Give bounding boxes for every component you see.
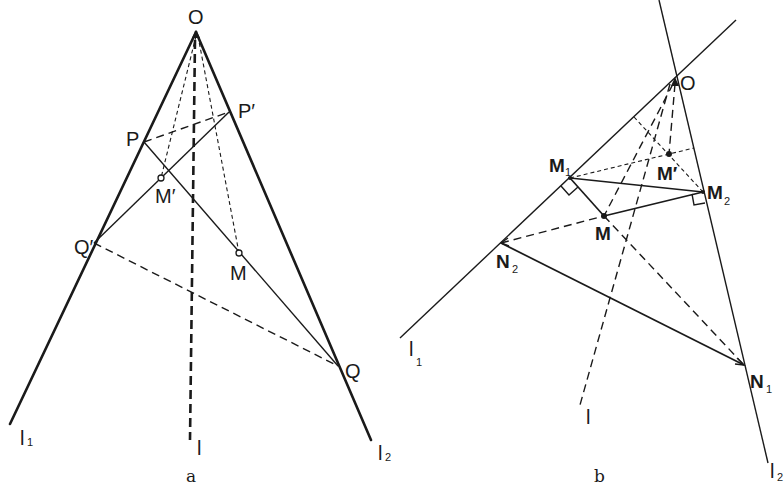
label-N2: N: [496, 251, 510, 272]
label-l2-a: l: [378, 442, 382, 464]
label-Mprime-a: M′: [155, 185, 176, 207]
label-Mprime-b: M′: [657, 163, 678, 184]
label-M1-sub: 1: [565, 166, 571, 178]
label-l1-b-sub: 1: [416, 356, 422, 368]
label-l1-a-sub: 1: [27, 436, 33, 448]
label-M2-sub: 2: [724, 195, 730, 207]
label-N1-sub: 1: [766, 383, 772, 395]
label-l2-a-sub: 2: [385, 451, 391, 463]
segment-MM2: [604, 192, 703, 216]
label-M2: M: [707, 182, 723, 203]
segment-M1M2: [570, 178, 703, 192]
point-M-a: [236, 250, 242, 256]
segment-OM: [198, 36, 239, 253]
caption-a: a: [186, 466, 196, 486]
label-O-b: O: [680, 72, 696, 94]
label-O-a: O: [188, 6, 204, 28]
label-l1-a: l: [20, 427, 24, 449]
geometry-figure: O P P′ Q′ Q M′ M l l 1 l 2 a: [0, 0, 784, 493]
segment-MN1: [604, 216, 744, 365]
point-Mprime-b: [666, 151, 672, 157]
line-l2-b: [659, 0, 768, 463]
label-N1: N: [750, 371, 764, 392]
line-l-a: [190, 40, 195, 440]
label-Qprime: Q′: [74, 236, 94, 258]
label-M-a: M: [230, 262, 247, 284]
segment-OM-b: [604, 84, 673, 216]
label-l1-b: l: [409, 338, 413, 360]
right-angle-mark-M2: [692, 194, 705, 205]
line-l1-b: [400, 20, 736, 338]
label-l-a: l: [197, 437, 201, 459]
segment-QprimeQ: [94, 243, 338, 366]
label-M-b: M: [595, 223, 611, 244]
label-l2-b-sub: 2: [777, 471, 783, 483]
line-l1-a: [10, 32, 196, 424]
figure-a: O P P′ Q′ Q M′ M l l 1 l 2 a: [10, 6, 391, 486]
label-N2-sub: 2: [512, 263, 518, 275]
figure-b: O M 1 M 2 M M′ N 2 N 1 l l 1 l 2 b: [400, 0, 783, 486]
line-l-b: [580, 84, 670, 405]
label-l-b: l: [586, 406, 590, 428]
segment-OMprime-b: [669, 84, 675, 154]
label-Pprime: P′: [238, 100, 255, 122]
label-Q: Q: [345, 360, 361, 382]
label-M1: M: [549, 155, 565, 176]
label-l2-b: l: [770, 460, 774, 482]
point-M2: [701, 190, 705, 194]
segment-M1M: [570, 178, 604, 216]
point-O-a: [192, 30, 200, 38]
point-Mprime-a: [158, 175, 164, 181]
segment-N2M: [501, 216, 604, 243]
right-angle-mark-M1: [561, 186, 578, 195]
caption-b: b: [594, 466, 605, 486]
segment-OMprime: [161, 36, 196, 178]
point-M-b: [601, 213, 607, 219]
label-P: P: [126, 128, 139, 150]
segment-N2N1: [501, 243, 744, 365]
